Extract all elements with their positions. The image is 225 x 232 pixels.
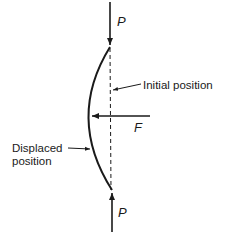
displaced-position-label-line2: position — [12, 155, 52, 167]
bottom-force-label: P — [118, 205, 127, 220]
initial-position-line — [110, 48, 111, 190]
column-diagram: P P F Initial position Displaced positio… — [0, 0, 225, 232]
displaced-position-label-line1: Displaced — [12, 142, 63, 154]
displaced-position-curve — [88, 47, 112, 190]
lateral-force-label: F — [134, 120, 143, 135]
displaced-position-leader — [68, 148, 90, 149]
initial-position-label: Initial position — [143, 79, 213, 91]
top-force-label: P — [117, 14, 126, 29]
initial-position-leader — [113, 84, 141, 90]
